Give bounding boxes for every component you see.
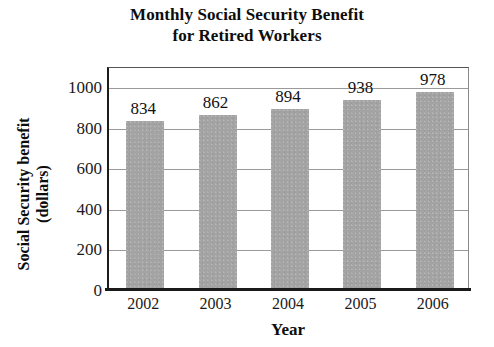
bar-value-label: 938 [330,79,390,96]
x-axis-line [105,288,471,291]
bar [343,100,381,290]
bar-value-label: 862 [186,94,246,111]
y-tick-label: 200 [46,241,102,258]
x-tick-label: 2005 [330,296,390,312]
y-tick-label: 400 [46,200,102,217]
y-tick-label: 0 [46,282,102,299]
bar [126,121,164,290]
y-tick-label: 800 [46,119,102,136]
bar [271,109,309,290]
x-tick-label: 2002 [113,296,173,312]
bar [199,115,237,290]
x-tick-label: 2004 [258,296,318,312]
x-tick-label: 2003 [186,296,246,312]
y-tick-label: 1000 [46,79,102,96]
x-tick-label: 2006 [403,296,463,312]
y-axis-tick-labels: 10008006004002000 [46,0,102,347]
y-axis-title-line-1: Social Security benefit [14,84,33,304]
bar-value-label: 978 [403,71,463,88]
bar [416,92,454,290]
y-tick-label: 600 [46,160,102,177]
bar-value-label: 894 [258,88,318,105]
bar-value-label: 834 [113,100,173,117]
x-axis-title: Year [107,320,469,340]
